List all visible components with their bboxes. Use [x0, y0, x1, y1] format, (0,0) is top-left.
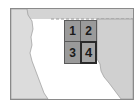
tile-label: 4	[85, 45, 92, 60]
map-frame: 1 2 3 4	[10, 8, 134, 100]
map-tile-1[interactable]: 1	[64, 20, 81, 42]
tile-label: 2	[85, 24, 92, 38]
western-land	[11, 9, 48, 99]
tile-label: 1	[69, 24, 76, 38]
map-tile-2[interactable]: 2	[80, 20, 97, 42]
eastern-land	[97, 19, 133, 99]
map-tile-3[interactable]: 3	[64, 41, 81, 64]
map-tile-4[interactable]: 4	[80, 41, 97, 64]
tile-label: 3	[69, 46, 76, 60]
